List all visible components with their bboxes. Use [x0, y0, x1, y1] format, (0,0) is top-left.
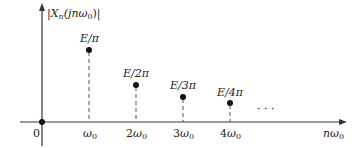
- value-label: E/π: [79, 32, 100, 45]
- stem-3: E/3π 3ω0: [169, 79, 197, 141]
- stem-1: E/π ω0: [79, 32, 100, 141]
- tick-label: ω0: [83, 127, 97, 141]
- origin-label: 0: [33, 127, 40, 140]
- stem-2: E/2π 2ω0: [122, 67, 150, 141]
- value-label: E/3π: [169, 79, 197, 92]
- tick-label: 4ω0: [220, 127, 241, 141]
- stem-dot: [227, 100, 233, 106]
- spectrum-diagram: |Xn(jnω0)| 0 E/π ω0 E/2π 2ω0 E/3π 3ω0 E/…: [0, 0, 360, 148]
- value-label: E/4π: [216, 86, 244, 99]
- ellipsis: · · ·: [257, 103, 274, 116]
- stem-4: E/4π 4ω0: [216, 86, 244, 141]
- tick-label: 2ω0: [126, 127, 147, 141]
- stem-dot: [180, 94, 186, 100]
- y-axis-label: |Xn(jnω0)|: [47, 7, 101, 21]
- x-axis-label: nω0: [323, 127, 344, 141]
- tick-label: 3ω0: [173, 127, 194, 141]
- y-axis-arrow-icon: [39, 3, 45, 11]
- value-label: E/2π: [122, 67, 150, 80]
- origin-dot: [39, 119, 45, 125]
- x-axis-arrow-icon: [339, 119, 347, 125]
- stem-dot: [133, 82, 139, 88]
- stem-dot: [86, 47, 92, 53]
